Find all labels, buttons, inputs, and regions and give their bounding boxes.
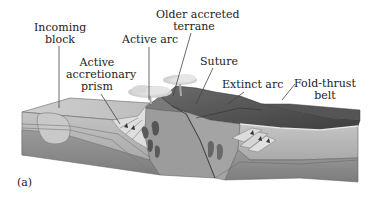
figure-caption: (a)	[17, 176, 32, 189]
accretionary-prism-label: Active accretionary prism	[66, 57, 128, 93]
label-line: block	[34, 34, 86, 46]
label-line: Extinct arc	[222, 79, 280, 91]
label-line: Suture	[200, 56, 238, 68]
suture-label: Suture	[200, 56, 238, 68]
fold-thrust-belt-label: Fold-thrust belt	[294, 78, 356, 102]
label-line: belt	[294, 90, 356, 102]
older-terrane-label: Older accreted terrane	[156, 9, 232, 33]
active-arc-label: Active arc	[122, 34, 176, 46]
label-line: prism	[66, 81, 128, 93]
accretionary-orogen-diagram: Incoming block Active arc Older accreted…	[0, 0, 381, 200]
label-line: Active arc	[122, 34, 176, 46]
extinct-arc-label: Extinct arc	[222, 79, 280, 91]
label-line: terrane	[156, 21, 232, 33]
incoming-block-label: Incoming block	[34, 22, 86, 46]
